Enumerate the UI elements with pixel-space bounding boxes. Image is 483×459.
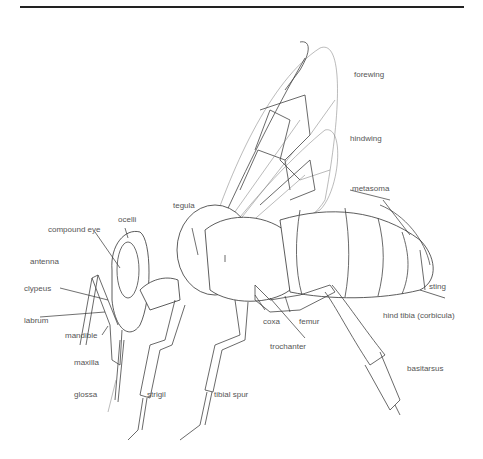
- label-tibial-spur: tibial spur: [214, 390, 248, 400]
- label-clypeus: clypeus: [24, 284, 51, 294]
- label-strigil: strigil: [147, 390, 166, 400]
- head-drawing: [112, 231, 180, 331]
- label-labrum: labrum: [24, 316, 48, 326]
- label-glossa: glossa: [74, 390, 97, 400]
- label-basitarsus: basitarsus: [407, 364, 443, 374]
- label-forewing: forewing: [354, 70, 384, 80]
- bee-anatomy-diagram: forewing hindwing metasoma tegula ocelli…: [0, 0, 483, 459]
- label-metasoma: metasoma: [352, 184, 389, 194]
- label-mandible: mandible: [65, 331, 97, 341]
- label-maxilla: maxilla: [74, 358, 99, 368]
- mouthparts-drawing: [108, 325, 124, 412]
- label-hind-tibia: hind tibia (corbicula): [383, 311, 455, 321]
- label-coxa: coxa: [263, 317, 280, 327]
- thorax-drawing: [177, 205, 290, 301]
- label-ocelli: ocelli: [118, 215, 136, 225]
- label-femur: femur: [299, 317, 319, 327]
- label-trochanter: trochanter: [270, 342, 306, 352]
- label-sting: sting: [429, 282, 446, 292]
- label-compound-eye: compound eye: [48, 225, 100, 235]
- abdomen-drawing: [280, 205, 445, 298]
- label-antenna: antenna: [30, 257, 59, 267]
- label-hindwing: hindwing: [350, 134, 382, 144]
- middle-leg-drawing: [180, 300, 248, 440]
- label-tegula: tegula: [173, 201, 195, 211]
